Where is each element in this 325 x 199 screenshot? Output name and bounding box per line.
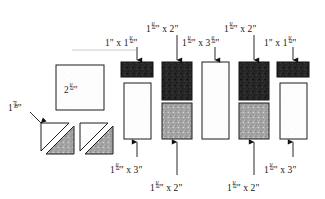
label-col4-bottom: 11/2" x 2" — [227, 181, 259, 193]
medium-rect-col4 — [239, 103, 269, 139]
label-col2-bottom: 11/2" x 2" — [150, 181, 182, 193]
dark-rect-col2 — [162, 62, 192, 100]
arrow-to-triangle — [30, 112, 41, 123]
label-col5-top: 1" x 11/2" — [264, 36, 296, 48]
label-center-square-size: 21/2" — [64, 83, 78, 95]
medium-rect-col2 — [162, 103, 192, 139]
label-col3-top: 11/2" x 31/2" — [182, 36, 219, 48]
light-strip-col1 — [124, 83, 151, 139]
light-strip-col5 — [280, 83, 307, 139]
label-triangle-size: 17/8" — [8, 101, 22, 113]
label-col1-top: 1" x 11/2" — [105, 36, 137, 48]
half-square-triangle-left — [41, 123, 74, 154]
label-col5-bottom: 11/2" x 3" — [264, 163, 296, 175]
dark-strip-col1 — [121, 62, 153, 77]
dark-strip-col5 — [277, 62, 309, 77]
cutting-diagram: 17/8" 21/2" 1" x 11/2" 11/2" x 2" 11/2" … — [0, 0, 325, 199]
half-square-triangle-right — [80, 123, 113, 154]
label-col1-bottom: 11/2" x 3" — [110, 163, 142, 175]
light-rect-col3 — [202, 62, 229, 139]
dark-rect-col4 — [239, 62, 269, 100]
label-col2-top: 11/2" x 2" — [146, 22, 178, 34]
label-col4-top: 11/2" x 2" — [224, 22, 256, 34]
